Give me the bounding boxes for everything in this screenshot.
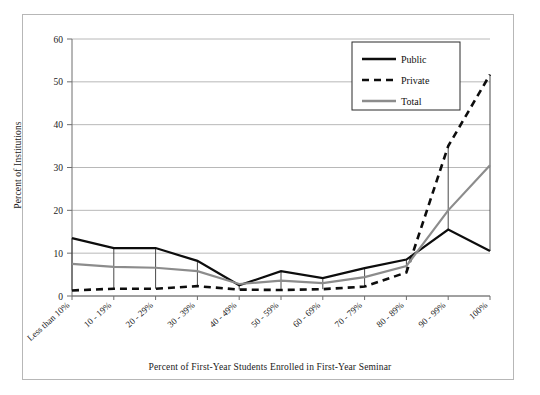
x-tick-label: 50 - 59%	[249, 300, 281, 330]
y-tick-label: 60	[54, 35, 64, 45]
legend[interactable]: PublicPrivateTotal	[352, 42, 460, 110]
x-tick-label: 90 - 99%	[416, 300, 448, 330]
y-tick-label: 0	[58, 292, 63, 302]
figure-container: 0102030405060 Less than 10%10 - 19%20 - …	[0, 0, 540, 395]
legend-label-total[interactable]: Total	[401, 96, 422, 107]
legend-label-private[interactable]: Private	[401, 75, 430, 86]
x-tick-label: 40 - 49%	[207, 300, 239, 330]
y-tick-label: 40	[54, 120, 64, 130]
x-tick-label: 80 - 89%	[375, 300, 407, 330]
y-tick-label: 30	[54, 163, 64, 173]
y-axis-title: Percent of Institutions	[13, 85, 23, 245]
x-tick-label: 20 - 29%	[124, 300, 156, 330]
x-tick-label: 70 - 79%	[333, 300, 365, 330]
x-tick-label: 60 - 69%	[291, 300, 323, 330]
x-tick-label: 30 - 39%	[166, 300, 198, 330]
series-line-total	[72, 165, 490, 284]
x-tick-label: 10 - 19%	[82, 300, 114, 330]
x-tick-label: 100%	[467, 300, 490, 322]
y-tick-label: 10	[54, 249, 64, 259]
x-tick-label: Less than 10%	[25, 300, 71, 343]
x-axis-title: Percent of First-Year Students Enrolled …	[0, 362, 540, 372]
legend-label-public[interactable]: Public	[401, 54, 427, 65]
y-tick-label-group: 0102030405060	[54, 35, 64, 302]
x-tick-label-group: Less than 10%10 - 19%20 - 29%30 - 39%40 …	[25, 300, 489, 343]
y-tick-label: 50	[54, 77, 64, 87]
y-tick-label: 20	[54, 206, 64, 216]
line-chart: 0102030405060 Less than 10%10 - 19%20 - …	[0, 0, 540, 395]
